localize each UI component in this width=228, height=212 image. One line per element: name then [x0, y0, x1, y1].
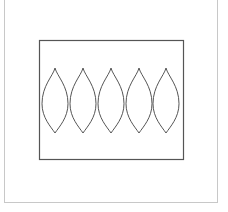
leaf-shape-2 [70, 68, 96, 133]
leaf-shape-4 [126, 68, 152, 133]
leaf-shape-3 [98, 68, 124, 133]
inner-rectangle [40, 41, 184, 160]
leaf-shape-1 [42, 68, 68, 133]
leaf-shape-5 [153, 68, 179, 133]
leaf-diagram [0, 0, 228, 212]
leaf-row [42, 68, 179, 133]
